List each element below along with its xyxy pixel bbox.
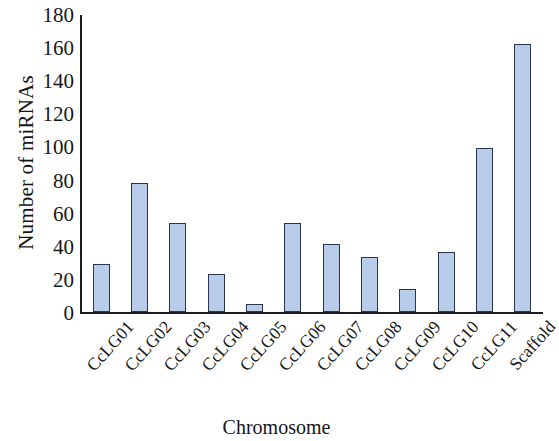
y-tick-label: 20 xyxy=(16,269,74,290)
x-label-slot: CcLG11 xyxy=(465,316,503,412)
x-tick-label: Scaffold xyxy=(506,318,558,374)
bar-slot xyxy=(159,14,197,312)
bar-slot xyxy=(120,14,158,312)
y-tick-label: 100 xyxy=(16,137,74,158)
bar xyxy=(323,244,340,312)
y-tick-label: 60 xyxy=(16,203,74,224)
x-label-slot: CcLG06 xyxy=(274,316,312,412)
bar xyxy=(284,223,301,312)
x-label-slot: CcLG08 xyxy=(350,316,388,412)
y-tick-label: 80 xyxy=(16,170,74,191)
bar xyxy=(246,304,263,312)
bar-slot xyxy=(389,14,427,312)
x-label-slot: CcLG03 xyxy=(159,316,197,412)
y-tick-label: 140 xyxy=(16,71,74,92)
bar xyxy=(208,274,225,312)
bar-slot xyxy=(465,14,503,312)
x-axis-line xyxy=(80,312,543,314)
x-label-slot: CcLG07 xyxy=(312,316,350,412)
x-axis-tick-labels: CcLG01CcLG02CcLG03CcLG04CcLG05CcLG06CcLG… xyxy=(82,316,542,412)
bar xyxy=(93,264,110,312)
x-label-slot: CcLG01 xyxy=(82,316,120,412)
x-label-slot: CcLG04 xyxy=(197,316,235,412)
bar-slot xyxy=(197,14,235,312)
bar-slot xyxy=(235,14,273,312)
bar-slot xyxy=(427,14,465,312)
y-tick-label: 120 xyxy=(16,104,74,125)
bar-slot xyxy=(274,14,312,312)
x-label-slot: CcLG10 xyxy=(427,316,465,412)
x-label-slot: CcLG09 xyxy=(389,316,427,412)
x-axis-title: Chromosome xyxy=(0,416,553,439)
bar-slot xyxy=(312,14,350,312)
x-label-slot: Scaffold xyxy=(504,316,542,412)
bar xyxy=(438,252,455,312)
bar xyxy=(399,289,416,312)
y-tick-label: 180 xyxy=(16,5,74,26)
y-axis-tick-labels: 180160140120100806040200 xyxy=(16,0,74,441)
y-tick-label: 160 xyxy=(16,38,74,59)
bar-slot xyxy=(82,14,120,312)
x-label-slot: CcLG02 xyxy=(120,316,158,412)
bar xyxy=(131,183,148,312)
bar xyxy=(514,44,531,312)
x-label-slot: CcLG05 xyxy=(235,316,273,412)
bar-slot xyxy=(504,14,542,312)
bar xyxy=(476,148,493,312)
bar xyxy=(361,257,378,312)
plot-area xyxy=(80,15,542,313)
bar xyxy=(169,223,186,312)
bar-series xyxy=(82,14,542,312)
y-tick-label: 0 xyxy=(16,303,74,324)
bar-slot xyxy=(350,14,388,312)
y-tick-label: 40 xyxy=(16,236,74,257)
